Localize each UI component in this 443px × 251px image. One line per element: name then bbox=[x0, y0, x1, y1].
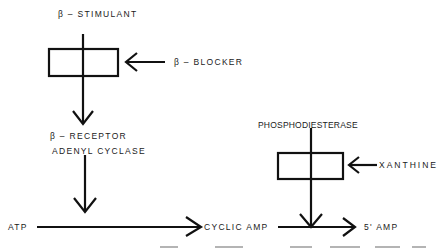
label-cyclic-amp: CYCLIC AMP bbox=[204, 222, 269, 232]
label-atp: ATP bbox=[8, 222, 28, 232]
label-beta-blocker: β – BLOCKER bbox=[174, 57, 243, 67]
label-5-amp: 5' AMP bbox=[364, 222, 398, 232]
label-xanthine: XANTHINE bbox=[379, 160, 438, 170]
pathway-diagram bbox=[0, 0, 443, 251]
label-beta-stimulant: β – STIMULANT bbox=[58, 9, 137, 19]
label-beta-receptor: β – RECEPTOR bbox=[50, 131, 127, 141]
cropped-caption-fragment bbox=[0, 246, 443, 251]
label-adenyl-cyclase: ADENYL CYCLASE bbox=[52, 146, 146, 156]
label-phosphodiesterase: PHOSPHODIESTERASE bbox=[258, 120, 358, 130]
